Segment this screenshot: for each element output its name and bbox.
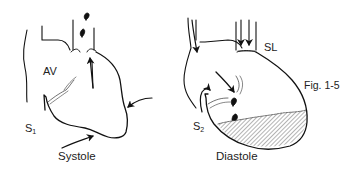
heart-diagram-drawing	[0, 0, 351, 174]
label-av-valve: AV	[43, 66, 57, 77]
caption-diastole: Diastole	[216, 151, 258, 163]
figure-number: Fig. 1-5	[304, 80, 340, 91]
label-sl-valve: SL	[264, 42, 277, 53]
s1-subscript: 1	[32, 128, 36, 135]
label-s2-sound: S2	[193, 121, 204, 133]
systole-heart	[24, 13, 152, 148]
caption-systole: Systole	[58, 151, 96, 163]
label-s1-sound: S1	[25, 123, 36, 135]
heart-cycle-figure: AV S1 Systole SL S2 Diastole Fig. 1-5	[0, 0, 351, 174]
s2-subscript: 2	[200, 126, 204, 133]
